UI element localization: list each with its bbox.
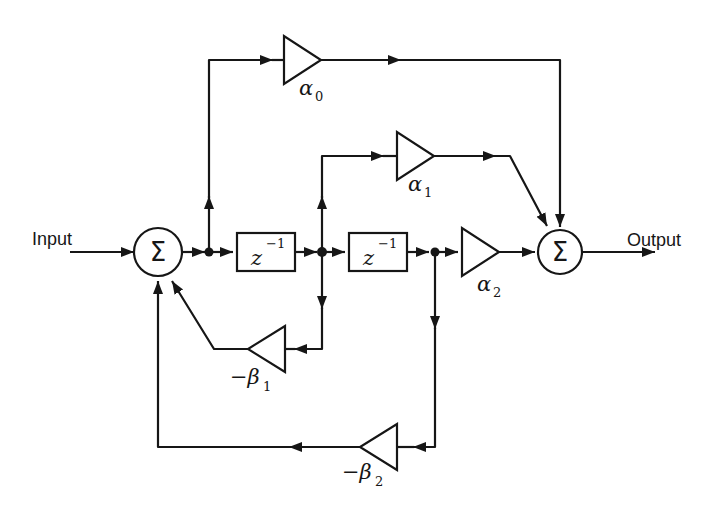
summer-left-symbol: Σ xyxy=(150,237,166,267)
gain-a0-label: α xyxy=(299,76,313,100)
output-label: Output xyxy=(627,230,681,250)
gain-a2-amplifier xyxy=(462,228,499,276)
a0-top-wire xyxy=(209,60,273,198)
b1-in-wire xyxy=(294,308,322,349)
a1-diag-wire xyxy=(495,156,547,226)
branch-node2-dot xyxy=(317,247,327,257)
delay1-exp-label: −1 xyxy=(266,236,285,251)
gain-b2-sub-label: 2 xyxy=(375,474,383,489)
b2-in-wire xyxy=(413,328,435,447)
gain-b1-label: −β xyxy=(230,365,260,389)
a1-top-wire xyxy=(322,156,384,198)
delay2-exp-label: −1 xyxy=(378,236,397,251)
input-label: Input xyxy=(32,229,72,249)
gain-a2-sub-label: 2 xyxy=(493,285,501,300)
gain-a2-label: α xyxy=(477,272,491,296)
b1-out-wire xyxy=(172,281,249,349)
summer-right-symbol: Σ xyxy=(552,237,568,267)
gain-b2-label: −β xyxy=(342,460,372,484)
filter-block-diagram: Input Output Σ Σ z −1 z −1 α 0 α 1 α 2 −… xyxy=(0,0,715,508)
branch-node3-dot xyxy=(431,248,440,257)
gain-a1-sub-label: 1 xyxy=(424,185,432,200)
gain-a0-sub-label: 0 xyxy=(315,89,323,104)
delay1-base-label: z xyxy=(250,246,263,270)
diagram-canvas: Input Output Σ Σ z −1 z −1 α 0 α 1 α 2 −… xyxy=(0,0,715,508)
gain-a1-label: α xyxy=(408,172,422,196)
gain-b1-sub-label: 1 xyxy=(263,379,271,394)
branch-node1-dot xyxy=(205,248,214,257)
delay2-base-label: z xyxy=(362,246,375,270)
a0-drop-wire xyxy=(400,60,560,227)
